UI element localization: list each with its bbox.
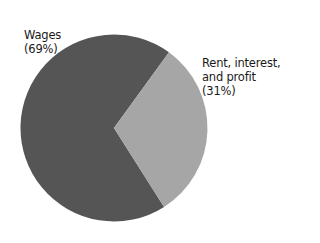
- wages-slice-label: Wages (69%): [24, 28, 61, 56]
- wages-label-name: Wages: [24, 28, 61, 42]
- wages-label-percent: (69%): [24, 42, 61, 56]
- rent-label-name-line2: and profit: [202, 70, 280, 84]
- rent-label-name-line1: Rent, interest,: [202, 56, 280, 70]
- rent-slice-label: Rent, interest, and profit (31%): [202, 56, 280, 98]
- pie-slices: [20, 34, 207, 221]
- rent-label-percent: (31%): [202, 84, 280, 98]
